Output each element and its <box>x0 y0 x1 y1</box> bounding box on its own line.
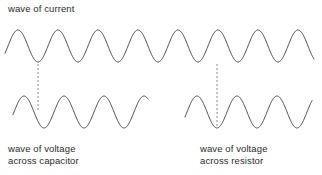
resistor-voltage-waveform-path <box>185 96 312 128</box>
label-wave-of-current: wave of current <box>8 3 74 15</box>
label-wave-of-voltage-across-capacitor: wave of voltageacross capacitor <box>8 143 79 167</box>
current-waveform-path <box>5 30 314 62</box>
capacitor-voltage-waveform-path <box>13 96 148 128</box>
capacitor-label-line-1: wave of voltage <box>8 143 76 154</box>
capacitor-label-line-2: across capacitor <box>8 155 79 166</box>
label-wave-of-voltage-across-resistor: wave of voltageacross resistor <box>200 143 268 167</box>
resistor-label-line-1: wave of voltage <box>200 143 268 154</box>
waveform-diagram: wave of current wave of voltageacross ca… <box>0 0 322 175</box>
resistor-label-line-2: across resistor <box>200 155 263 166</box>
